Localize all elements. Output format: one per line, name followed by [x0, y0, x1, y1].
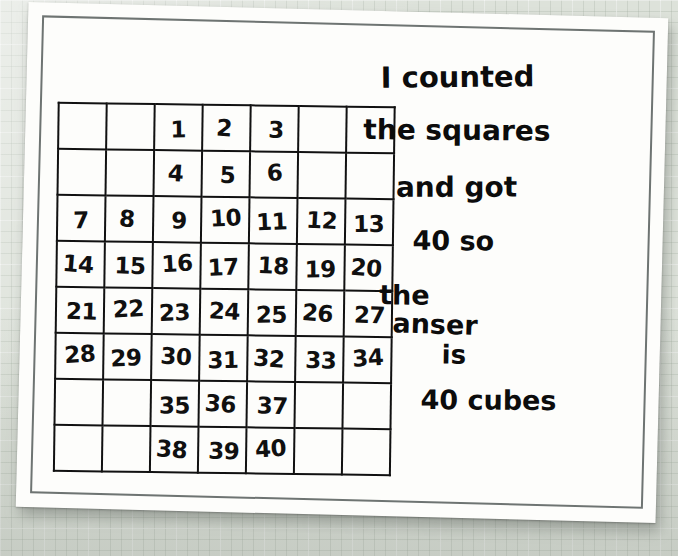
grid-cell-value: 12 [306, 206, 338, 234]
grid-cell-r0c0 [58, 103, 107, 150]
grid-cell-value: 17 [208, 253, 240, 280]
grid-cell-value: 2 [216, 114, 234, 141]
grid-cell-value: 14 [62, 250, 95, 278]
grid-cell-r5c1: 29 [103, 333, 152, 380]
grid-cell-value: 11 [256, 208, 288, 235]
grid-cell-r3c1: 15 [104, 241, 153, 288]
grid-cell-value: 40 [255, 435, 287, 463]
grid-cell-r2c3: 10 [201, 197, 250, 244]
note-line-8: 40 cubes [420, 386, 648, 415]
grid-cell-value: 10 [210, 204, 242, 232]
grid-cell-r3c0: 14 [56, 241, 105, 288]
paper-sheet-wrapper: 1 2 3 4 5 6 [16, 2, 669, 523]
grid-cell-value: 22 [113, 295, 145, 323]
grid-cell-r6c0 [54, 379, 103, 426]
grid-cell-value: 37 [257, 392, 289, 419]
table-row: 28 29 30 31 32 33 34 [55, 333, 392, 383]
grid-cell-r3c5: 19 [296, 244, 345, 291]
grid-cell-value: 4 [167, 160, 185, 187]
grid-cell-r6c4: 37 [246, 381, 295, 428]
grid-cell-r4c5: 26 [296, 290, 345, 337]
grid-cell-value: 5 [220, 162, 236, 188]
grid-cell-value: 30 [160, 343, 192, 371]
note-line-5: the [379, 281, 651, 310]
grid-cell-value: 33 [305, 347, 337, 374]
grid-cell-r1c5 [297, 152, 346, 199]
grid-cell-r1c0 [58, 149, 107, 196]
table-row: 35 36 37 [54, 379, 391, 429]
grid-cell-r4c1: 22 [104, 287, 153, 334]
note-line-4: 40 so [412, 227, 652, 256]
grid-cell-value: 15 [115, 252, 147, 279]
grid-cell-r1c1 [106, 149, 155, 196]
grid-cell-value: 31 [208, 347, 239, 373]
grid-cell-r2c1: 8 [105, 195, 154, 242]
grid-cell-value: 35 [159, 392, 190, 418]
note-line-1: I counted [381, 61, 657, 93]
note-line-3: and got [396, 173, 654, 201]
grid-cell-r7c3: 39 [198, 427, 247, 474]
grid-cell-r3c4: 18 [248, 243, 297, 290]
grid-cell-r7c4: 40 [246, 427, 295, 474]
grid-cell-value: 18 [257, 252, 289, 280]
grid-cell-r4c3: 24 [200, 289, 249, 336]
handwritten-note: I counted the squares and got 40 so the … [348, 58, 657, 416]
grid-cell-r6c5 [294, 382, 343, 429]
note-line-6: anser [392, 309, 651, 345]
grid-cell-value: 28 [64, 340, 96, 368]
counting-grid-wrapper: 1 2 3 4 5 6 [53, 102, 396, 476]
grid-cell-r6c3: 36 [198, 381, 247, 428]
grid-cell-value: 24 [209, 297, 241, 325]
grid-cell-r0c2: 1 [154, 104, 203, 151]
grid-cell-r7c1 [102, 425, 151, 472]
grid-cell-r1c4: 6 [249, 151, 298, 198]
grid-cell-r5c5: 33 [295, 336, 344, 383]
grid-cell-r0c1 [106, 103, 155, 150]
grid-cell-r0c5 [298, 106, 347, 153]
grid-cell-r0c3: 2 [202, 105, 251, 152]
grid-cell-r5c2: 30 [151, 334, 200, 381]
grid-cell-value: 32 [253, 344, 286, 372]
grid-cell-value: 23 [159, 299, 191, 326]
table-row: 1 2 3 [58, 103, 395, 153]
grid-cell-r4c4: 25 [248, 289, 297, 336]
table-row: 7 8 9 10 11 12 13 [57, 195, 394, 245]
grid-cell-value: 7 [73, 207, 89, 233]
grid-cell-value: 9 [171, 207, 187, 233]
grid-cell-value: 39 [208, 438, 240, 465]
grid-cell-value: 36 [204, 390, 237, 418]
paper-sheet: 1 2 3 4 5 6 [16, 2, 669, 523]
counting-grid-body: 1 2 3 4 5 6 [54, 103, 395, 475]
grid-cell-value: 26 [301, 299, 334, 327]
table-row: 14 15 16 17 18 19 20 [56, 241, 393, 291]
grid-cell-r7c6 [342, 429, 391, 476]
counting-grid: 1 2 3 4 5 6 [53, 102, 396, 476]
grid-cell-r7c2: 38 [150, 426, 199, 473]
grid-cell-r4c2: 23 [152, 288, 201, 335]
grid-cell-value: 19 [305, 256, 336, 282]
grid-cell-r5c3: 31 [199, 335, 248, 382]
table-row: 4 5 6 [58, 149, 395, 199]
grid-cell-value: 8 [118, 205, 136, 232]
grid-cell-r6c2: 35 [150, 380, 199, 427]
table-row: 38 39 40 [54, 425, 391, 475]
grid-cell-r1c3: 5 [201, 151, 250, 198]
grid-cell-r7c0 [54, 425, 103, 472]
grid-cell-r6c1 [102, 379, 151, 426]
grid-cell-value: 25 [256, 301, 287, 327]
grid-cell-value: 3 [268, 117, 284, 143]
grid-cell-r3c2: 16 [152, 242, 201, 289]
table-row: 21 22 23 24 25 26 27 [56, 287, 393, 337]
grid-cell-value: 38 [156, 435, 189, 463]
note-line-7: is [441, 341, 649, 370]
grid-cell-value: 1 [170, 116, 186, 142]
grid-cell-r2c0: 7 [57, 195, 106, 242]
note-line-2: the squares [363, 116, 655, 146]
grid-cell-r5c4: 32 [247, 335, 296, 382]
worksheet-photo: 1 2 3 4 5 6 [0, 0, 678, 556]
grid-cell-r3c3: 17 [200, 243, 249, 290]
grid-cell-r5c0: 28 [55, 333, 104, 380]
grid-cell-r4c0: 21 [56, 287, 105, 334]
grid-cell-r2c4: 11 [249, 197, 298, 244]
grid-cell-value: 21 [66, 298, 98, 325]
